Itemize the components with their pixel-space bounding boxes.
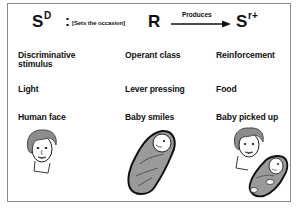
stimulus-superscript: D — [44, 11, 51, 21]
stimulus-symbol: S — [32, 13, 43, 30]
reinforcer-superscript: r+ — [248, 11, 258, 21]
arrow-label: Produces — [182, 11, 212, 18]
swaddled-baby-icon — [124, 128, 178, 198]
heading-discriminative-line2: stimulus — [18, 60, 53, 69]
heading-operant-class: Operant class — [125, 51, 181, 60]
example-food: Food — [216, 85, 237, 94]
woman-face-icon — [24, 127, 64, 175]
example-human-face: Human face — [18, 113, 66, 122]
heading-reinforcement: Reinforcement — [216, 51, 275, 60]
produces-arrow-icon — [170, 20, 232, 28]
response-symbol: R — [148, 13, 160, 30]
relation-label: [Sets the occasion] — [72, 20, 125, 26]
example-baby-picked-up: Baby picked up — [216, 113, 278, 122]
colon-separator: : — [65, 13, 70, 28]
example-baby-smiles: Baby smiles — [125, 113, 174, 122]
example-lever-pressing: Lever pressing — [125, 85, 185, 94]
example-light: Light — [18, 85, 39, 94]
reinforcer-symbol: S — [236, 13, 247, 30]
woman-holding-baby-icon — [232, 126, 290, 200]
